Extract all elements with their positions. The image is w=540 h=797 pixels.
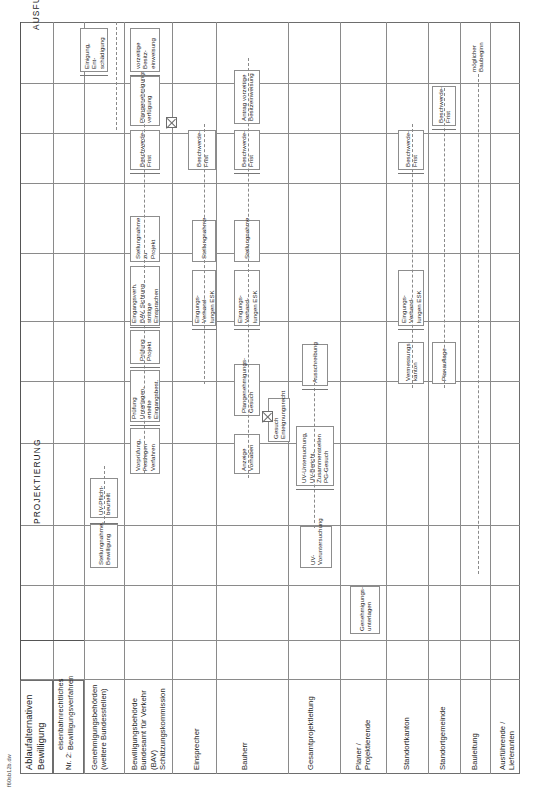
subtitle-number: Nr. 2: (64, 752, 73, 770)
node-n32[interactable]: möglicher Baubeginn (466, 26, 488, 74)
node-n04[interactable]: Vorprüfung, Festlegen Verfahren (130, 428, 160, 474)
node-n23[interactable]: UV-Voruntersuchung (300, 526, 332, 568)
subtitle-line1: eisenbahnrechtliches (56, 679, 65, 750)
subtitle-line2: Bewilligungsverfahren (66, 676, 75, 750)
lane-label-ausfuehrende: Ausführende / Lieferanten (498, 644, 517, 770)
node-n29[interactable]: Beschwerde- Frist (398, 130, 424, 170)
lane-sep-6 (386, 22, 387, 774)
node-n09[interactable]: Beschwerde- Frist (130, 130, 160, 170)
phase-label-ausfuehrung: AUSFUEHRUNG (31, 0, 41, 30)
lane-sep-8 (460, 22, 461, 774)
lane-sep-7 (428, 22, 429, 774)
sheet-code: f60sb12b.dw (6, 754, 12, 787)
lane-sep-1 (124, 22, 125, 774)
node-n06[interactable]: Prüfung Projekt (130, 330, 160, 364)
connector-tick-9 (296, 489, 334, 490)
connector-tick-8 (432, 129, 456, 130)
node-n12[interactable]: Einigung, Ent- schädigung (80, 28, 108, 72)
frame-top (20, 22, 21, 774)
node-n21[interactable]: Anzeige Vorhaben (234, 434, 260, 474)
lane-label-bewilligungsbehoerde: Bewilligungsbehörde Bundesamt für Verkeh… (130, 644, 168, 770)
flow-lane2-main (204, 124, 205, 384)
node-n01[interactable]: Stellungnahme, Bewilligung (90, 524, 118, 568)
flow-lane7-main (444, 88, 445, 388)
flow-lane3-main (248, 58, 249, 478)
connector-tick-3 (130, 367, 160, 368)
lane-sep-5 (340, 22, 341, 774)
connector-tick-4 (130, 327, 160, 328)
flow-lane1-main (144, 74, 145, 474)
page-title-line2: Bewilligung (36, 680, 47, 770)
lane-label-genehmigungsbehoerden: Genehmigungsbehörden (weitere Bundesstel… (90, 644, 109, 770)
node-n07[interactable]: Eingangsverh. BAV, Sichtung strittige Ei… (130, 266, 160, 326)
node-n19[interactable]: Stellungnahme (234, 220, 260, 262)
node-n08[interactable]: Stellungnahme zu Projekt (130, 216, 160, 262)
connector-tick-12 (234, 329, 260, 330)
node-n13[interactable]: Beschwerde- Frist (188, 130, 216, 170)
col-sep-6 (20, 253, 520, 254)
node-n28[interactable]: Eingungs-Verhand- lungen ESK (398, 270, 424, 326)
node-n05[interactable]: Prüfung Unterlagen, erteilte Eingangsbes… (130, 370, 160, 422)
lane-sep-9 (490, 22, 491, 774)
grid-line-title (53, 22, 54, 774)
phase-sep (20, 640, 84, 641)
node-n26[interactable]: Genehmigungs- unterlagen (350, 586, 380, 634)
connector-tick-10 (302, 389, 328, 390)
diagram-sheet: Ablaufalternativen Bewilligung Nr. 2: ei… (0, 0, 540, 797)
node-n25[interactable]: Ausschreibung (302, 344, 328, 386)
grid-line-subtitle (84, 22, 85, 774)
lane-label-bauherr: Bauherr (240, 644, 249, 770)
diagram-rotated-canvas: Ablaufalternativen Bewilligung Nr. 2: ei… (20, 22, 520, 774)
flow-lane6-main (412, 124, 413, 388)
flow-to-ausfuehrung (116, 22, 117, 130)
decision-marker-1[interactable] (166, 117, 177, 128)
node-n20[interactable]: Plangenehmigungs- Gesuch (234, 364, 260, 416)
col-sep-7 (20, 183, 520, 184)
decision-marker-2[interactable] (262, 411, 273, 422)
connector-tick-11 (192, 329, 216, 330)
node-n11[interactable]: vorzeitige Besitz- einweisung (130, 28, 160, 72)
connector-tick-7 (398, 173, 424, 174)
col-sep-8 (20, 133, 520, 134)
lane-label-standortkanton: Standortkanton (402, 644, 411, 770)
lane-label-bauleitung: Bauleitung (470, 644, 479, 770)
node-n27[interactable]: Vermessungs kanton (398, 342, 424, 384)
connector-tick-15 (80, 75, 108, 76)
connector-tick-14 (130, 75, 160, 76)
connector-tick-1 (90, 523, 118, 524)
col-sep-0 (84, 640, 520, 641)
connector-tick-13 (398, 329, 424, 330)
flow-lane4-main (314, 378, 315, 528)
lane-label-standortgemeinde: Standortgemeinde (438, 644, 447, 770)
node-n16[interactable]: Beschwerde- Frist (234, 130, 260, 170)
lane-sep-3 (216, 22, 217, 774)
node-n24[interactable]: UV-Untersuchung, UV-Bericht, Zusammenste… (296, 426, 334, 486)
col-sep-5 (20, 321, 520, 322)
col-sep-9 (20, 83, 520, 84)
col-sep-3 (20, 443, 520, 444)
flow-n01-n02 (104, 466, 105, 524)
node-n18[interactable]: Eingungs-Verhand- lungen ESK (234, 270, 260, 326)
lane-label-gesamtprojektleitung: Gesamtprojektleitung (306, 644, 315, 770)
connector-tick-6 (234, 173, 260, 174)
node-n17[interactable]: Antrag vorzeitige Besitzeinweisung (234, 70, 260, 124)
connector-tick-5 (130, 173, 160, 174)
lane-label-planer: Planer / Projektierende (354, 644, 373, 770)
node-n10[interactable]: Plangenehmigungs- verfügung (130, 76, 160, 126)
connector-tick-2 (130, 425, 160, 426)
page-title-line1: Ablaufalternativen (24, 680, 35, 770)
flow-lane8-main (478, 74, 479, 574)
phase-label-projektierung: PROJEKTIERUNG (32, 439, 42, 525)
lane-label-einsprecher: Einsprecher (192, 644, 201, 770)
col-sep-1 (20, 585, 520, 586)
